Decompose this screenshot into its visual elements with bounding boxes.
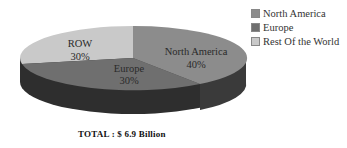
total-annotation: TOTAL : $ 6.9 Billion [78, 129, 166, 139]
legend-label: Rest Of the World [263, 36, 339, 47]
swatch-icon [251, 23, 260, 32]
label-row-name: ROW [68, 38, 93, 49]
label-na-pct: 40% [186, 59, 206, 70]
label-europe-pct: 30% [119, 75, 139, 86]
legend-item-rest-of-world: Rest Of the World [251, 34, 339, 48]
label-row-pct: 30% [70, 51, 90, 62]
swatch-icon [251, 9, 260, 18]
swatch-icon [251, 37, 260, 46]
legend-label: North America [263, 8, 326, 19]
legend: North America Europe Rest Of the World [251, 6, 339, 48]
label-europe-name: Europe [114, 63, 145, 74]
legend-item-europe: Europe [251, 20, 339, 34]
label-na-name: North America [165, 46, 228, 57]
legend-label: Europe [263, 22, 293, 33]
legend-item-north-america: North America [251, 6, 339, 20]
